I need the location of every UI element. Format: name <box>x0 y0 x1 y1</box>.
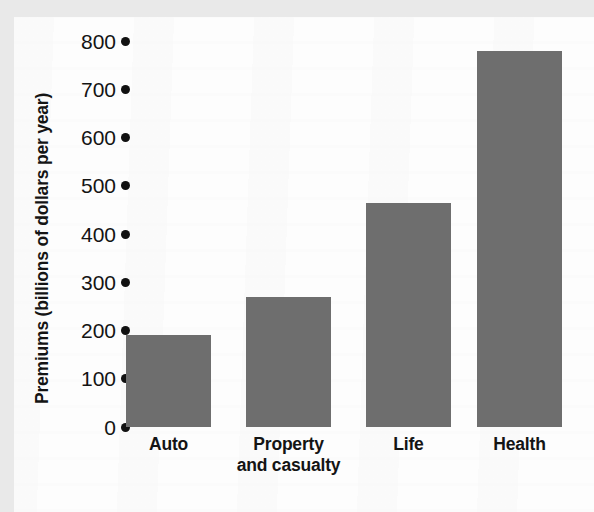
bar <box>477 51 562 427</box>
y-axis-tick-dot-icon <box>121 85 130 94</box>
bar <box>366 203 451 427</box>
y-axis-tick-dot-icon <box>121 133 130 142</box>
y-axis-tick-dot-icon <box>121 278 130 287</box>
scanned-page: Premiums (billions of dollars per year) … <box>0 0 594 512</box>
y-axis-tick-dot-icon <box>121 181 130 190</box>
y-axis-tick-label: 400 <box>81 224 116 245</box>
y-axis-tick-label: 700 <box>81 79 116 100</box>
bar <box>246 297 331 427</box>
y-axis-tick-label: 600 <box>81 127 116 148</box>
bar <box>126 335 211 427</box>
bar-chart: Premiums (billions of dollars per year) … <box>0 0 594 512</box>
y-axis-tick-dot-icon <box>121 326 130 335</box>
y-axis-tick-dot-icon <box>121 37 130 46</box>
y-axis-tick-label: 500 <box>81 175 116 196</box>
y-axis-tick-dot-icon <box>121 230 130 239</box>
x-axis-label-line: Health <box>447 434 592 455</box>
y-axis-tick-label: 300 <box>81 272 116 293</box>
x-axis-label: Health <box>447 434 592 455</box>
x-axis-label-line: and casualty <box>216 455 361 476</box>
y-axis-tick-label: 800 <box>81 31 116 52</box>
y-axis-tick-label: 200 <box>81 320 116 341</box>
y-axis-title: Premiums (billions of dollars per year) <box>32 49 53 449</box>
y-axis-tick-label: 100 <box>81 368 116 389</box>
